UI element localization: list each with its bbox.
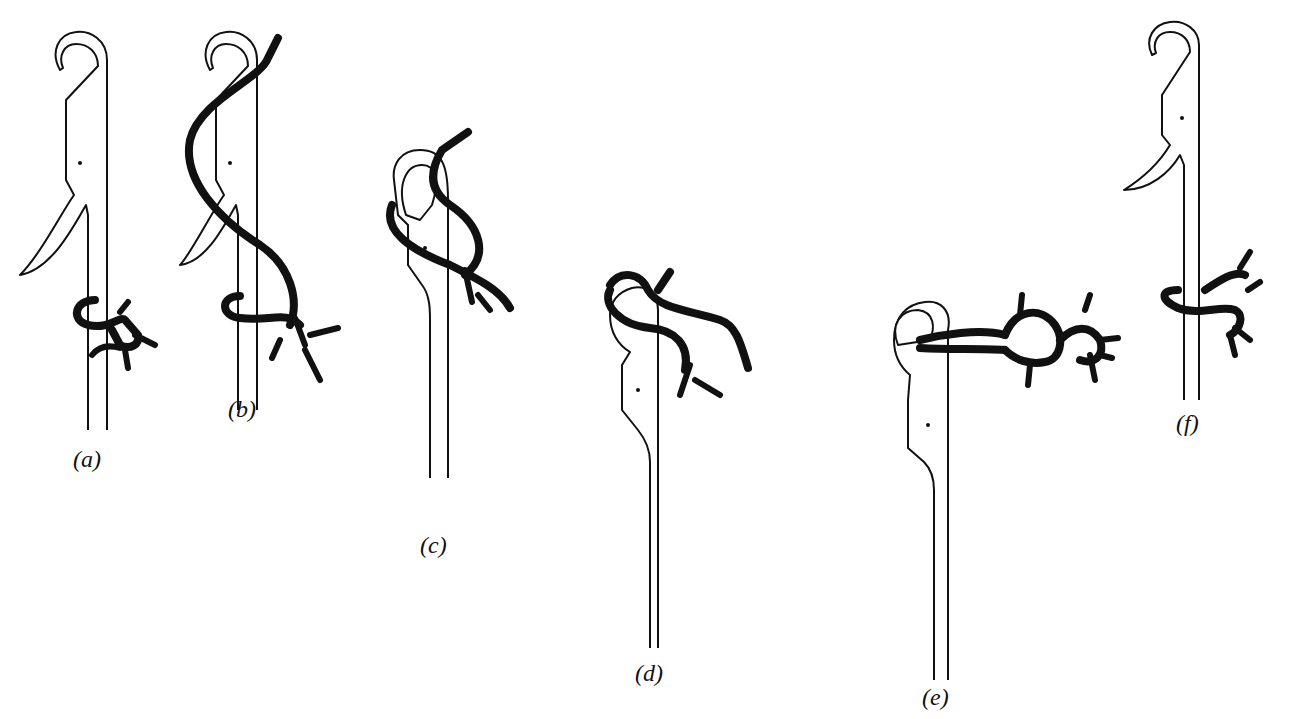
hook-tool-latch-closed-icon	[370, 120, 570, 580]
panel-label-d: (d)	[635, 660, 663, 687]
panel-b: (b)	[160, 0, 360, 480]
panel-c: (c)	[370, 120, 570, 580]
panel-label-e: (e)	[922, 684, 949, 711]
panel-d: (d)	[580, 250, 780, 700]
hook-tool-knot-forming-icon	[580, 250, 780, 700]
hook-tool-finished-knot-icon	[1110, 0, 1289, 460]
panel-label-b: (b)	[228, 396, 256, 423]
panel-label-a: (a)	[73, 446, 101, 473]
panel-label-f: (f)	[1176, 410, 1199, 437]
panel-f: (f)	[1110, 0, 1289, 460]
hook-tool-cord-wrapped-icon	[160, 0, 360, 480]
panel-label-c: (c)	[420, 532, 447, 559]
